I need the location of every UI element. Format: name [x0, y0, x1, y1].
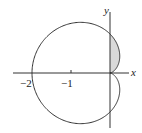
cardioid-figure: y x −2 −1 [0, 0, 142, 133]
tick-label-neg2: −2 [20, 78, 32, 89]
cardioid-plot [0, 0, 142, 133]
y-axis-label: y [104, 5, 109, 16]
x-axis-label: x [131, 67, 136, 78]
tick-label-neg1: −1 [61, 78, 73, 89]
